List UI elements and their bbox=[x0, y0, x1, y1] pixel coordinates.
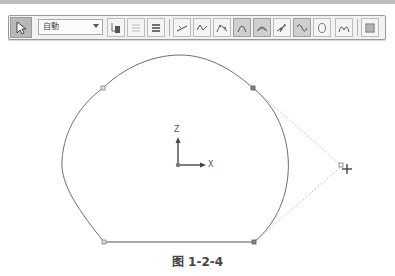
profile-curve[interactable] bbox=[62, 55, 289, 242]
figure-caption: 图 1-2-4 bbox=[0, 252, 395, 269]
point-handle-lower-left[interactable] bbox=[102, 240, 106, 244]
control-polygon bbox=[253, 88, 342, 242]
axis-x-label: X bbox=[208, 160, 213, 169]
move-cursor-icon bbox=[342, 164, 352, 174]
control-point-handle[interactable] bbox=[339, 163, 343, 167]
point-handle-upper-left[interactable] bbox=[101, 86, 105, 90]
coordinate-axes bbox=[176, 137, 207, 168]
axis-z-label: Z bbox=[174, 125, 179, 134]
point-handle-upper-right[interactable] bbox=[251, 86, 255, 90]
point-handle-lower-right[interactable] bbox=[252, 240, 256, 244]
sketch-canvas[interactable] bbox=[0, 0, 395, 276]
